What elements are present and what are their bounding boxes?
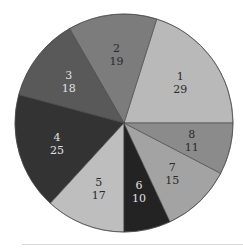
- slice-value-label: 17: [92, 189, 106, 202]
- slice-category-label: 3: [65, 69, 72, 82]
- slice-category-label: 2: [113, 42, 120, 55]
- slice-value-label: 15: [165, 174, 179, 187]
- slice-category-label: 1: [177, 70, 184, 83]
- slice-value-label: 11: [185, 141, 199, 154]
- pie-chart: 129219318425517610715811: [0, 0, 243, 248]
- bottom-divider: [22, 244, 243, 245]
- slice-category-label: 7: [169, 161, 176, 174]
- pie-slices: [15, 14, 233, 232]
- slice-value-label: 29: [173, 83, 187, 96]
- slice-category-label: 5: [95, 176, 102, 189]
- slice-category-label: 4: [54, 131, 61, 144]
- slice-value-label: 10: [132, 192, 146, 205]
- slice-category-label: 6: [136, 179, 143, 192]
- slice-value-label: 25: [50, 144, 64, 157]
- slice-value-label: 19: [109, 55, 123, 68]
- slice-category-label: 8: [188, 128, 195, 141]
- slice-value-label: 18: [62, 82, 76, 95]
